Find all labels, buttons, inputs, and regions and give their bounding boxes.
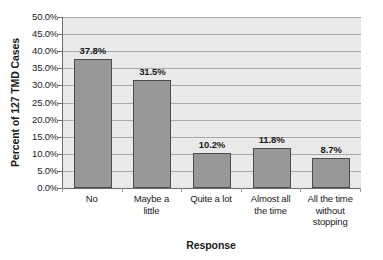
bar-value-label: 31.5% (139, 66, 165, 77)
y-axis-tick-label: 25.0% (16, 98, 58, 108)
bar-slot: 8.7% (301, 17, 361, 188)
bar-value-label: 37.8% (80, 45, 106, 56)
y-axis-tick-mark (58, 68, 62, 69)
y-axis-tick-mark (58, 154, 62, 155)
x-axis-tick-label: No (62, 193, 122, 205)
x-axis-tick-label-line: Almost all (241, 193, 301, 205)
bar[interactable] (312, 158, 350, 188)
x-axis-tick-label-line: without (300, 205, 360, 217)
bar-slot: 11.8% (242, 17, 302, 188)
x-axis-tick-labels: NoMaybe alittleQuite a lotAlmost allthe … (62, 193, 360, 237)
y-axis-tick-mark (58, 120, 62, 121)
x-axis-tick-mark (62, 188, 63, 192)
x-axis-tick-mark (360, 188, 361, 192)
x-axis-tick-label-line: Quite a lot (181, 193, 241, 205)
y-axis-tick-mark (58, 85, 62, 86)
y-axis-tick-label: 40.0% (16, 46, 58, 56)
x-axis-tick-mark (241, 188, 242, 192)
y-axis-tick-labels: 0.0%5.0%10.0%15.0%20.0%25.0%30.0%35.0%40… (16, 17, 58, 188)
y-axis-tick-label: 45.0% (16, 29, 58, 39)
x-axis-tick-label: Quite a lot (181, 193, 241, 205)
x-axis-tick-label-line: the time (241, 205, 301, 217)
x-axis-tick-mark (181, 188, 182, 192)
bar-value-label: 10.2% (199, 139, 225, 150)
y-axis-tick-label: 10.0% (16, 149, 58, 159)
x-axis-tick-label-line: stopping (300, 216, 360, 228)
y-axis-tick-label: 35.0% (16, 63, 58, 73)
x-axis-tick-label-line: Maybe a (122, 193, 182, 205)
y-axis-tick-mark (58, 51, 62, 52)
y-axis-tick-mark (58, 103, 62, 104)
bar-value-label: 11.8% (259, 134, 285, 145)
bar-slot: 37.8% (63, 17, 123, 188)
x-axis-title: Response (62, 239, 360, 251)
y-axis-tick-label: 20.0% (16, 115, 58, 125)
bar[interactable] (133, 80, 171, 188)
y-axis-tick-mark (58, 17, 62, 18)
x-axis-tick-mark (122, 188, 123, 192)
y-axis-tick-label: 0.0% (16, 183, 58, 193)
x-axis-tick-label: All the timewithoutstopping (300, 193, 360, 228)
bar-chart: Percent of 127 TMD Cases 0.0%5.0%10.0%15… (0, 0, 383, 260)
y-axis-tick-label: 30.0% (16, 80, 58, 90)
bar-slot: 10.2% (182, 17, 242, 188)
x-axis-tick-marks (62, 188, 361, 192)
x-axis-tick-label-line: All the time (300, 193, 360, 205)
y-axis-tick-mark (58, 137, 62, 138)
bar[interactable] (193, 153, 231, 188)
y-axis-tick-label: 5.0% (16, 166, 58, 176)
y-axis-tick-mark (58, 34, 62, 35)
bar-slot: 31.5% (123, 17, 183, 188)
bar-value-label: 8.7% (321, 144, 342, 155)
bars-group: 37.8%31.5%10.2%11.8%8.7% (63, 17, 361, 188)
y-axis-tick-mark (58, 188, 62, 189)
bar[interactable] (253, 148, 291, 188)
y-axis-tick-mark (58, 171, 62, 172)
x-axis-tick-label: Almost allthe time (241, 193, 301, 216)
plot-area: 37.8%31.5%10.2%11.8%8.7% (62, 17, 361, 189)
bar[interactable] (74, 59, 112, 188)
x-axis-tick-label-line: No (62, 193, 122, 205)
x-axis-tick-label-line: little (122, 205, 182, 217)
y-axis-tick-label: 15.0% (16, 132, 58, 142)
x-axis-tick-mark (300, 188, 301, 192)
y-axis-tick-label: 50.0% (16, 12, 58, 22)
x-axis-tick-label: Maybe alittle (122, 193, 182, 216)
